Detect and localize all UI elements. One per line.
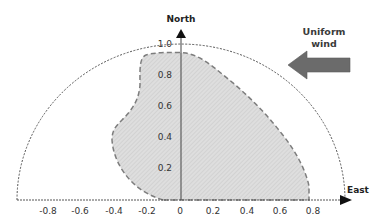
east-label: East (347, 185, 370, 195)
y-tick: 0.6 (158, 101, 173, 111)
wind-label-line2: wind (311, 38, 337, 49)
y-tick: 1.0 (158, 39, 173, 49)
y-tick: 0.4 (158, 132, 173, 142)
wind-label-line1: Uniform (303, 26, 346, 37)
north-arrowhead-icon (176, 29, 186, 38)
x-tick: -0.8 (39, 206, 57, 216)
y-tick: 0.8 (158, 70, 173, 80)
x-tick: -0.2 (138, 206, 156, 216)
wind-arrow-icon (288, 51, 350, 79)
x-tick: 0.8 (306, 206, 321, 216)
x-tick: 0.4 (240, 206, 255, 216)
x-tick-labels: -0.8 -0.6 -0.4 -0.2 0 0.2 0.4 0.6 0.8 (39, 206, 320, 216)
x-tick: -0.6 (71, 206, 89, 216)
wind-footprint-diagram: North East -0.8 -0.6 -0.4 -0.2 0 0.2 0.4… (0, 0, 384, 223)
x-tick: -0.4 (105, 206, 123, 216)
y-tick: 0.2 (158, 163, 172, 173)
x-tick: 0.2 (206, 206, 220, 216)
x-tick: 0.6 (273, 206, 288, 216)
shaded-region (112, 52, 309, 200)
north-label: North (167, 14, 196, 24)
x-tick: 0 (177, 206, 183, 216)
east-arrowhead-icon (340, 195, 352, 205)
